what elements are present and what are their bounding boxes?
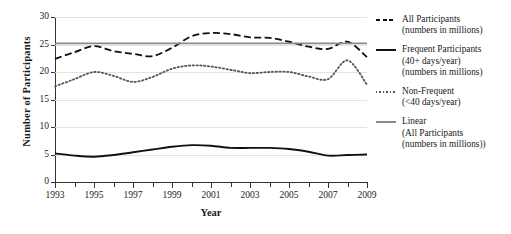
x-tick-2009 — [367, 183, 368, 188]
y-tick-label-5: 5 — [27, 150, 49, 159]
chart-legend: All Participants(numbers in millions)Fre… — [376, 14, 511, 158]
x-tick-2003 — [250, 183, 251, 188]
legend-entry-1[interactable]: Frequent Participants(40+ days/year)(num… — [376, 44, 511, 78]
series-line-1 — [55, 145, 367, 157]
series-line-0 — [55, 33, 367, 59]
x-tick-2002 — [231, 183, 232, 187]
x-tick-1994 — [75, 183, 76, 187]
legend-label-3-2: (numbers in millions)) — [402, 139, 511, 150]
x-tick-label-2005: 2005 — [272, 190, 306, 200]
series-line-2 — [55, 60, 367, 86]
plot-area: 051015202530 — [55, 17, 367, 182]
x-tick-label-2001: 2001 — [194, 190, 228, 200]
y-tick-label-0: 0 — [27, 177, 49, 186]
legend-label-1-2: (numbers in millions) — [402, 67, 511, 78]
y-tick-label-30: 30 — [27, 12, 49, 21]
x-tick-label-1997: 1997 — [116, 190, 150, 200]
y-tick-label-20: 20 — [27, 67, 49, 76]
legend-label-1-0: Frequent Participants — [402, 44, 511, 55]
x-tick-1998 — [153, 183, 154, 187]
x-tick-label-1995: 1995 — [77, 190, 111, 200]
x-tick-label-1999: 1999 — [155, 190, 189, 200]
x-tick-2008 — [348, 183, 349, 187]
x-tick-2001 — [211, 183, 212, 188]
participation-line-chart: Number of Participants Year 051015202530… — [0, 0, 511, 234]
legend-swatch-icon-0 — [376, 19, 396, 21]
x-tick-label-2003: 2003 — [233, 190, 267, 200]
legend-label-0-1: (numbers in millions) — [402, 25, 511, 36]
legend-label-3-0: Linear — [402, 116, 511, 127]
x-tick-1997 — [133, 183, 134, 188]
legend-entry-0[interactable]: All Participants(numbers in millions) — [376, 14, 511, 37]
y-tick-label-15: 15 — [27, 95, 49, 104]
legend-entry-2[interactable]: Non-Frequent(<40 days/year) — [376, 86, 511, 109]
x-axis-ticks: 199319951997199920012003200520072009 — [55, 183, 367, 207]
y-tick-label-10: 10 — [27, 122, 49, 131]
series-layer — [55, 17, 367, 182]
x-tick-1993 — [55, 183, 56, 188]
x-tick-label-2007: 2007 — [311, 190, 345, 200]
legend-swatch-icon-2 — [376, 91, 396, 93]
legend-swatch-icon-3 — [376, 121, 396, 123]
y-tick-label-25: 25 — [27, 40, 49, 49]
x-tick-1995 — [94, 183, 95, 188]
legend-label-2-0: Non-Frequent — [402, 86, 511, 97]
x-tick-2000 — [192, 183, 193, 187]
x-tick-label-2009: 2009 — [350, 190, 384, 200]
legend-entry-3[interactable]: Linear(All Participants(numbers in milli… — [376, 116, 511, 150]
x-tick-2006 — [309, 183, 310, 187]
legend-swatch-icon-1 — [376, 49, 396, 51]
legend-label-0-0: All Participants — [402, 14, 511, 25]
x-tick-2007 — [328, 183, 329, 188]
x-tick-1996 — [114, 183, 115, 187]
legend-label-1-1: (40+ days/year) — [402, 56, 511, 67]
x-tick-1999 — [172, 183, 173, 188]
x-tick-2005 — [289, 183, 290, 188]
legend-label-2-1: (<40 days/year) — [402, 97, 511, 108]
x-tick-2004 — [270, 183, 271, 187]
legend-label-3-1: (All Participants — [402, 128, 511, 139]
x-tick-label-1993: 1993 — [38, 190, 72, 200]
x-axis-title: Year — [55, 207, 367, 218]
